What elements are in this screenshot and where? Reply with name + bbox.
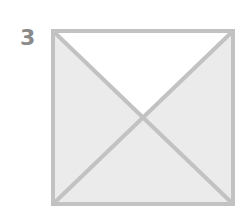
square-diagonals-figure — [0, 0, 242, 215]
